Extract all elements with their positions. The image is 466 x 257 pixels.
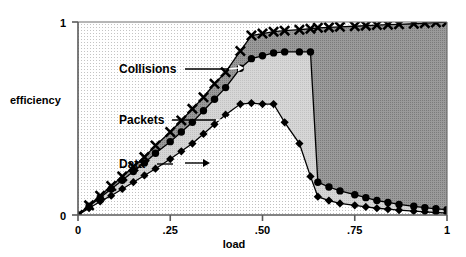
annotation-data-label: Data: [119, 157, 145, 171]
marker-circle: [259, 52, 266, 59]
marker-circle: [336, 187, 343, 194]
annotation-collisions-arrow-line: [229, 68, 238, 69]
marker-circle: [248, 55, 255, 62]
x-tick-label: .50: [255, 224, 270, 236]
x-ticks: [78, 215, 447, 221]
marker-circle: [119, 177, 126, 184]
chart-figure: 1 0 0.25.50.751 efficiency load Collisio…: [0, 0, 466, 257]
marker-circle: [307, 48, 314, 55]
x-tick-labels: 0.25.50.751: [75, 224, 450, 236]
marker-circle: [314, 178, 321, 185]
marker-circle: [167, 138, 174, 145]
marker-circle: [108, 185, 115, 192]
marker-circle: [270, 49, 277, 56]
marker-circle: [384, 199, 391, 206]
marker-circle: [178, 128, 185, 135]
marker-circle: [200, 107, 207, 114]
marker-circle: [152, 150, 159, 157]
x-axis-title: load: [223, 238, 246, 250]
x-tick-label: .75: [347, 224, 362, 236]
annotation-data-leader2: [173, 163, 184, 164]
marker-circle: [281, 48, 288, 55]
marker-circle: [211, 96, 218, 103]
marker-circle: [325, 183, 332, 190]
marker-circle: [222, 84, 229, 91]
annotation-packets-label: Packets: [119, 113, 165, 127]
x-tick-label: 0: [75, 224, 81, 236]
marker-circle: [373, 197, 380, 204]
marker-circle: [296, 48, 303, 55]
y-axis-title: efficiency: [10, 94, 62, 106]
x-tick-label: .25: [163, 224, 178, 236]
y-tick-label-1: 1: [60, 17, 66, 29]
efficiency-vs-load-chart: 1 0 0.25.50.751 efficiency load Collisio…: [0, 0, 466, 257]
y-tick-label-0: 0: [60, 210, 66, 222]
x-tick-label: 1: [444, 224, 450, 236]
marker-circle: [351, 191, 358, 198]
marker-circle: [362, 194, 369, 201]
annotation-collisions-label: Collisions: [119, 62, 177, 76]
